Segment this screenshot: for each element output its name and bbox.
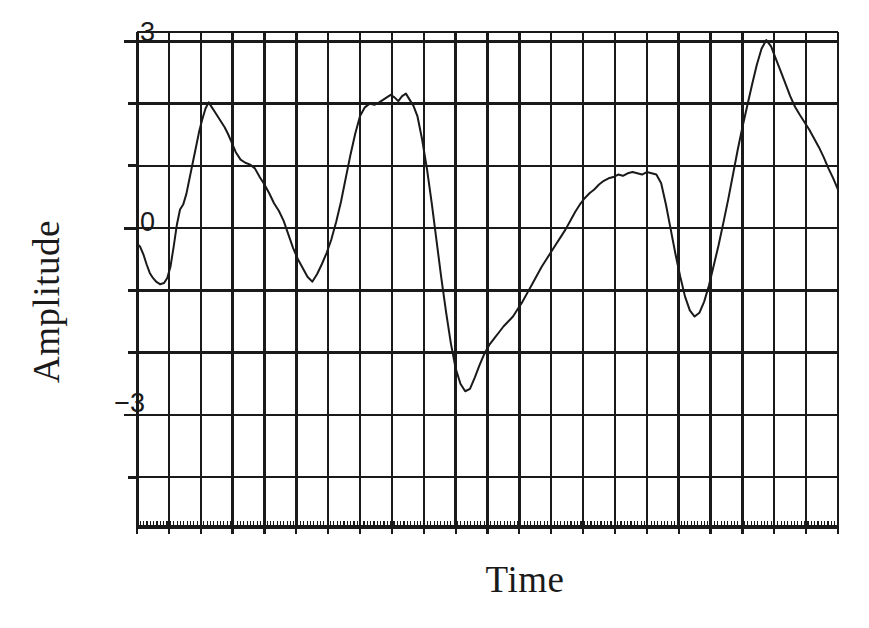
figure-container: Amplitude Time 3 0 −3	[0, 0, 869, 628]
axis-ticks	[124, 41, 838, 534]
gridlines	[137, 32, 838, 527]
plot-area	[0, 0, 869, 628]
